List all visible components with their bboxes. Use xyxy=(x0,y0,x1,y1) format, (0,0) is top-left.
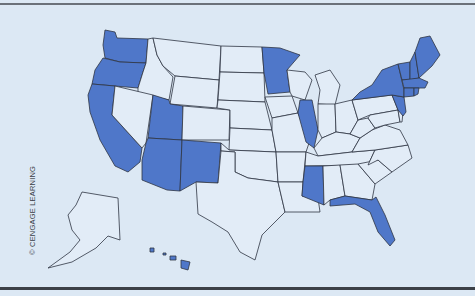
state-nd xyxy=(220,46,264,73)
state-ri xyxy=(414,88,419,96)
state-ma xyxy=(402,78,428,88)
us-map xyxy=(0,0,475,296)
state-wi xyxy=(287,70,312,100)
state-ak xyxy=(48,192,120,268)
map-frame: © CENGAGE LEARNING xyxy=(0,0,475,296)
state-ny xyxy=(352,64,404,100)
state-or xyxy=(92,58,146,88)
state-hi xyxy=(150,248,190,270)
state-ar xyxy=(276,152,306,182)
copyright-credit: © CENGAGE LEARNING xyxy=(28,166,37,255)
state-wa xyxy=(103,30,148,63)
bottom-rule xyxy=(0,287,475,290)
state-wy xyxy=(170,76,219,108)
state-me xyxy=(415,36,440,78)
state-fl xyxy=(330,196,395,246)
state-mi xyxy=(315,70,340,105)
state-az xyxy=(142,138,182,191)
state-ks xyxy=(229,128,276,152)
state-co xyxy=(182,106,230,140)
state-ct xyxy=(404,88,414,97)
state-sd xyxy=(218,72,265,102)
